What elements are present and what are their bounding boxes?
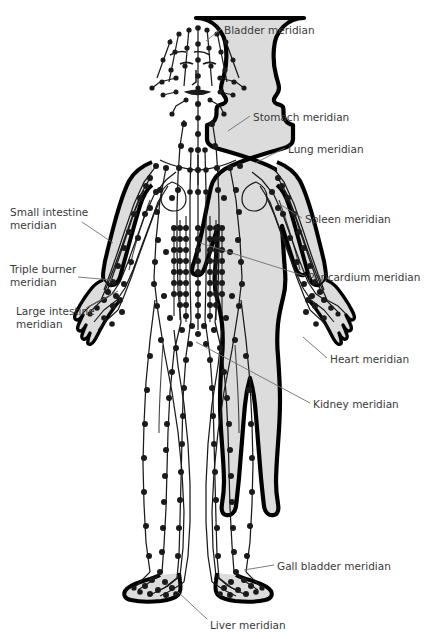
label-kidney: Kidney meridian [313, 398, 399, 411]
label-triple-burner: Triple burner meridian [10, 263, 76, 288]
label-gall-bladder: Gall bladder meridian [277, 560, 391, 573]
label-heart: Heart meridian [330, 353, 409, 366]
leader-line-gall-bladder [244, 565, 274, 570]
meridian-diagram: Bladder meridianStomach meridianLung mer… [0, 0, 429, 639]
right-hand-outline [308, 280, 354, 344]
label-small-intestine: Small intestine meridian [10, 206, 88, 231]
leader-line-liver [178, 592, 207, 619]
body-silhouette [75, 18, 355, 602]
label-liver: Liver meridian [210, 619, 286, 632]
label-stomach: Stomach meridian [253, 111, 349, 124]
label-large-intestine: Large intestine meridian [16, 305, 95, 330]
label-pericardium: Pericardium meridian [308, 271, 420, 284]
label-bladder: Bladder meridian [224, 24, 315, 37]
label-spleen: Spleen meridian [305, 213, 391, 226]
label-lung: Lung meridian [288, 143, 364, 156]
leader-line-heart [303, 337, 327, 358]
